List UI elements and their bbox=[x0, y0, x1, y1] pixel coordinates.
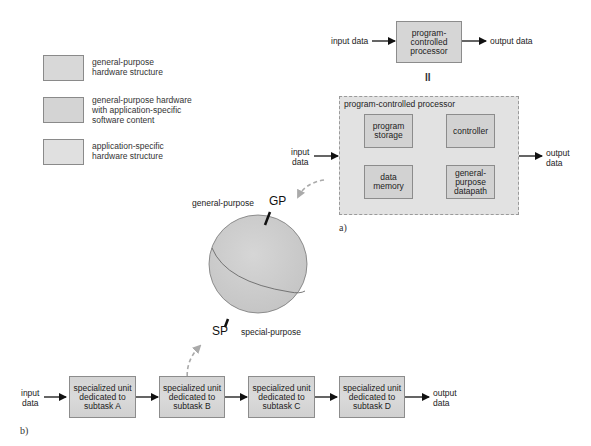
program-controlled-processor-detail: program-controlled processor program sto… bbox=[339, 96, 519, 215]
gp-label: GP bbox=[269, 194, 286, 208]
top-output-data-label: output data bbox=[490, 37, 533, 47]
bottom-output-line: data bbox=[433, 399, 457, 409]
bottom-output-data-label: output data bbox=[433, 389, 457, 408]
bottom-input-data-label: input data bbox=[21, 389, 39, 408]
legend-text-line: with application-specific bbox=[92, 105, 192, 115]
block-label-line: controller bbox=[453, 127, 488, 136]
block-label-line: storage bbox=[373, 131, 405, 140]
equivalence-symbol: II bbox=[425, 72, 431, 83]
legend-swatch-general-purpose-hardware bbox=[43, 55, 84, 81]
unit-label-line: subtask B bbox=[163, 402, 221, 411]
specialized-unit-b: specialized unit dedicated to subtask B bbox=[159, 376, 225, 418]
processor-label-line: processor bbox=[410, 47, 447, 56]
program-storage-block: program storage bbox=[364, 114, 413, 148]
legend-text-line: hardware structure bbox=[92, 151, 164, 161]
sp-label: SP bbox=[212, 324, 228, 338]
specialized-unit-c: specialized unit dedicated to subtask C bbox=[248, 376, 315, 418]
bottom-input-line: data bbox=[21, 399, 39, 409]
top-input-data-label: input data bbox=[331, 37, 368, 47]
legend-text-line: software content bbox=[92, 115, 192, 125]
specialized-unit-a: specialized unit dedicated to subtask A bbox=[69, 376, 136, 418]
legend-text-line: general-purpose hardware bbox=[92, 95, 192, 105]
detail-title: program-controlled processor bbox=[344, 99, 455, 109]
legend-label-gp-hardware-app-software: general-purpose hardware with applicatio… bbox=[92, 95, 192, 125]
data-memory-block: data memory bbox=[364, 165, 413, 199]
block-label-line: datapath bbox=[454, 187, 487, 196]
unit-label-line: subtask A bbox=[73, 402, 131, 411]
legend-text-line: hardware structure bbox=[92, 67, 163, 77]
general-purpose-label: general-purpose bbox=[192, 199, 254, 209]
caption-b: b) bbox=[20, 425, 28, 436]
detail-output-data-label: output data bbox=[546, 149, 570, 168]
detail-input-data-label: input data bbox=[291, 148, 309, 167]
legend-text-line: application-specific bbox=[92, 141, 164, 151]
controller-block: controller bbox=[446, 114, 495, 148]
block-label-line: memory bbox=[373, 182, 404, 191]
caption-a: a) bbox=[339, 222, 347, 233]
dashed-arrow-to-gp bbox=[298, 180, 324, 197]
legend-label-application-specific-hardware: application-specific hardware structure bbox=[92, 141, 164, 161]
legend-swatch-gp-hardware-app-software bbox=[43, 97, 84, 123]
legend-swatch-application-specific-hardware bbox=[43, 139, 84, 165]
program-controlled-processor-box: program- controlled processor bbox=[396, 21, 462, 63]
special-purpose-label: special-purpose bbox=[241, 328, 301, 338]
unit-label-line: subtask D bbox=[343, 402, 401, 411]
specialized-unit-d: specialized unit dedicated to subtask D bbox=[339, 376, 405, 418]
sphere bbox=[209, 215, 307, 313]
unit-label-line: subtask C bbox=[252, 402, 310, 411]
general-purpose-datapath-block: general- purpose datapath bbox=[446, 165, 495, 199]
legend-label-general-purpose-hardware: general-purpose hardware structure bbox=[92, 57, 163, 77]
detail-input-line: data bbox=[291, 158, 309, 168]
legend-text-line: general-purpose bbox=[92, 57, 163, 67]
detail-output-line: data bbox=[546, 159, 570, 169]
